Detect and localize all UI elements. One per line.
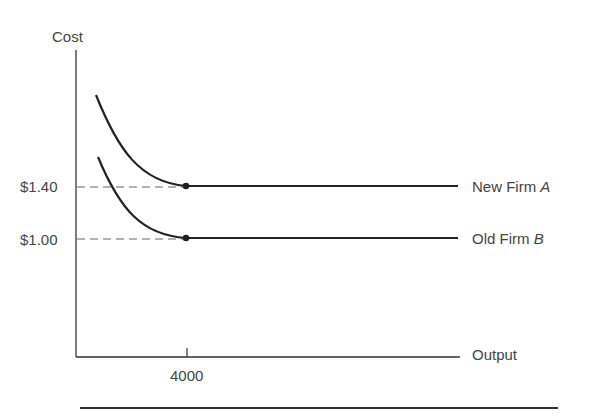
- series-label-text: Old Firm: [472, 230, 534, 247]
- curve-new-firm-a: [96, 95, 458, 186]
- curve-old-firm-b: [98, 157, 458, 238]
- y-tick-label-1-40: $1.40: [20, 179, 58, 194]
- x-axis-label: Output: [472, 347, 517, 362]
- min-point-new-firm-a: [183, 183, 190, 190]
- x-tick-label-4000: 4000: [170, 368, 203, 383]
- series-label-text: New Firm: [472, 178, 540, 195]
- series-label-old-firm-b: Old Firm B: [472, 231, 544, 246]
- series-label-new-firm-a: New Firm A: [472, 179, 550, 194]
- y-axis-label: Cost: [52, 29, 83, 44]
- min-point-old-firm-b: [183, 235, 190, 242]
- series-label-letter: A: [540, 178, 550, 195]
- bottom-divider: [80, 407, 558, 409]
- y-tick-label-1-00: $1.00: [20, 232, 58, 247]
- series-label-letter: B: [534, 230, 544, 247]
